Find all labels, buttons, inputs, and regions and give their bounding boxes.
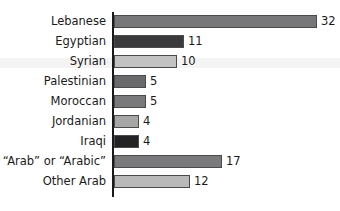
category-label: Egyptian: [0, 35, 106, 48]
category-label: Syrian: [0, 55, 106, 68]
bar: [114, 15, 317, 28]
plot-area: Lebanese 32 Egyptian 11 Syrian 10 Palest…: [0, 0, 340, 211]
value-label: 12: [194, 175, 209, 188]
category-label: Palestinian: [0, 75, 106, 88]
value-label: 5: [150, 95, 157, 108]
category-label: Iraqi: [0, 135, 106, 148]
category-label: Moroccan: [0, 95, 106, 108]
bar: [114, 135, 139, 148]
value-label: 4: [143, 135, 150, 148]
value-label: 10: [181, 55, 196, 68]
bar: [114, 35, 184, 48]
category-label: Jordanian: [0, 115, 106, 128]
value-label: 32: [321, 15, 336, 28]
bar: [114, 115, 139, 128]
bar: [114, 55, 177, 68]
value-label: 4: [143, 115, 150, 128]
category-label: Other Arab: [0, 175, 106, 188]
value-label: 5: [150, 75, 157, 88]
category-label: Lebanese: [0, 15, 106, 28]
bar: [114, 75, 146, 88]
bar-chart: Lebanese 32 Egyptian 11 Syrian 10 Palest…: [0, 0, 340, 211]
bar: [114, 175, 190, 188]
value-label: 17: [226, 155, 241, 168]
bar: [114, 95, 146, 108]
category-label: “Arab” or “Arabic”: [0, 155, 106, 168]
bar: [114, 155, 222, 168]
value-label: 11: [188, 35, 203, 48]
